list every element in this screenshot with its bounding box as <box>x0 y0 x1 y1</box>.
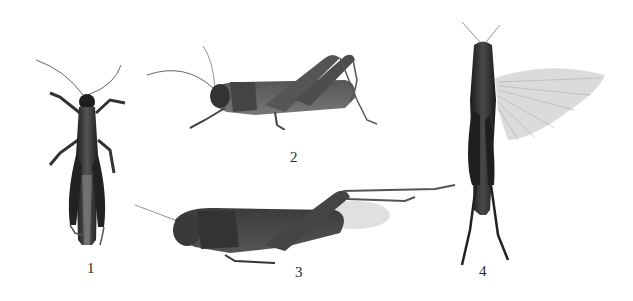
grasshopper-wing-spread-illustration <box>450 20 610 270</box>
panel-label-2: 2 <box>290 150 298 165</box>
panel-4: 4 <box>450 20 610 290</box>
grasshopper-lateral-illustration-2 <box>135 175 460 265</box>
panel-label-3: 3 <box>295 265 303 280</box>
panel-3: 3 <box>135 175 460 290</box>
panel-2: 2 <box>145 40 385 170</box>
figure-plate: 1 2 <box>0 0 633 301</box>
panel-1: 1 <box>30 55 140 255</box>
grasshopper-lateral-illustration <box>145 40 385 130</box>
panel-label-4: 4 <box>479 264 487 279</box>
panel-label-1: 1 <box>87 261 95 276</box>
grasshopper-dorsal-illustration <box>30 55 140 255</box>
